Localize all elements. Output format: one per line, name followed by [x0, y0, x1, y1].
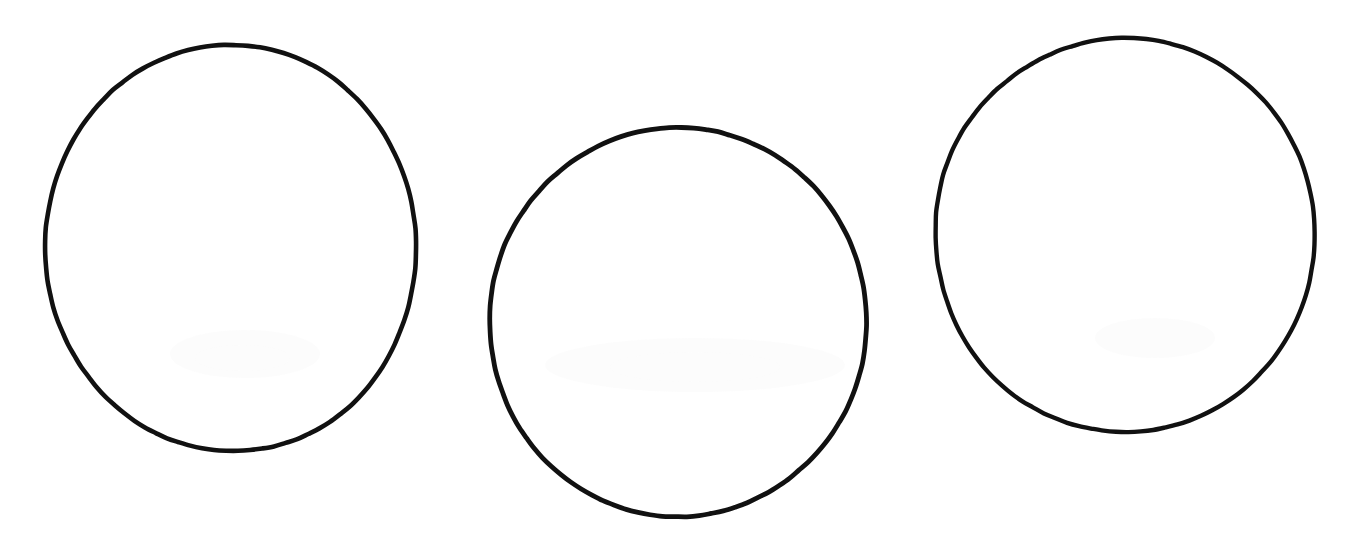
- drawing-canvas: Circle 1Circle 2Circle 3: [0, 0, 1348, 553]
- paper-background: [0, 0, 1348, 553]
- circles-drawing: Circle 1Circle 2Circle 3: [0, 0, 1348, 553]
